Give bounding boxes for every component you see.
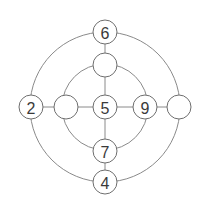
node-inner-right: 9 (133, 95, 157, 119)
node-outer-left: 2 (19, 95, 43, 119)
number-ring-diagram: 6 2 5 9 7 4 (0, 0, 202, 203)
node-label: 4 (101, 175, 110, 192)
node-label: 2 (27, 100, 36, 117)
node-label: 6 (101, 25, 110, 42)
node-inner-top (93, 53, 117, 77)
node-label: 7 (101, 144, 110, 161)
node-label: 5 (101, 100, 110, 117)
node-outer-top: 6 (93, 20, 117, 44)
node-outer-bottom: 4 (93, 170, 117, 194)
node-label: 9 (141, 100, 150, 117)
node-center: 5 (93, 95, 117, 119)
node-inner-left (54, 95, 78, 119)
node-inner-bottom: 7 (93, 139, 117, 163)
node-outer-right (167, 95, 191, 119)
